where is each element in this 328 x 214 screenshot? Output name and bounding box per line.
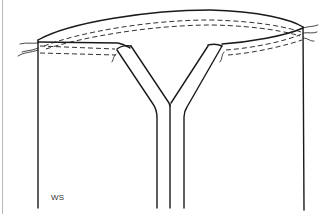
- illustration-frame: WS: [0, 0, 328, 214]
- thread-end-mid-right: [220, 52, 224, 62]
- y-right-arm-inner: [171, 46, 208, 103]
- stitch-line-front-left-1: [40, 46, 115, 49]
- thread-end-left-1: [20, 43, 38, 44]
- thread-end-left-3: [22, 48, 38, 52]
- waistband-front-edge-right: [222, 28, 303, 44]
- thread-end-right-3: [303, 38, 314, 41]
- thread-end-right-2: [303, 32, 317, 33]
- y-left-arm-outer: [117, 50, 157, 208]
- right-flap-fold: [208, 44, 222, 46]
- wrong-side-label: WS: [51, 193, 65, 202]
- y-left-arm-inner: [131, 46, 170, 106]
- y-right-arm-outer: [184, 46, 222, 208]
- garment-waistband-diagram: [0, 0, 328, 214]
- stitch-line-front-left-2: [40, 53, 116, 55]
- side-seam-right: [303, 27, 304, 210]
- thread-end-right-1: [303, 25, 318, 28]
